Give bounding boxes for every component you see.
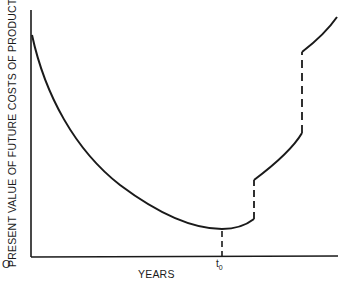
y-axis-label: PRESENT VALUE OF FUTURE COSTS OF PRODUCT… (6, 7, 18, 267)
cost-curve-segment-1 (32, 35, 254, 229)
cost-curve-segment-2 (254, 133, 302, 180)
t0-subscript: 0 (219, 264, 223, 271)
cost-curve-segment-3 (302, 17, 337, 52)
x-axis (31, 256, 338, 257)
t0-label: t0 (216, 258, 223, 271)
chart-canvas (0, 0, 341, 291)
x-axis-label: YEARS (138, 268, 175, 280)
origin-label: O (2, 258, 11, 270)
